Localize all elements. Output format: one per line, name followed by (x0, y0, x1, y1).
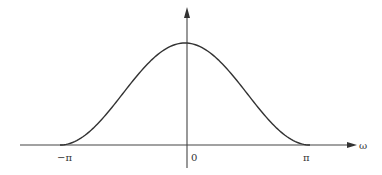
curve-line (60, 43, 310, 145)
x-axis-arrow-icon (347, 142, 357, 148)
chart-plot: −π 0 π ω (0, 0, 382, 175)
tick-label-neg-pi: −π (57, 152, 72, 163)
y-axis-arrow-icon (184, 7, 190, 18)
tick-label-zero: 0 (191, 152, 197, 163)
tick-label-pi: π (303, 152, 310, 163)
x-axis-label: ω (359, 140, 367, 151)
